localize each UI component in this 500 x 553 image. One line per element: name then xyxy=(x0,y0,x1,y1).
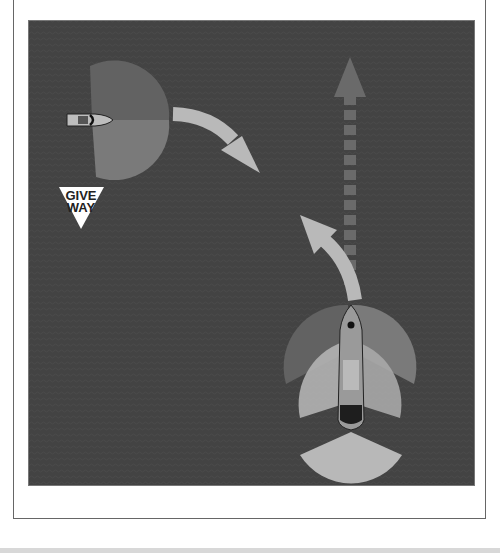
give-way-vessel xyxy=(67,114,113,126)
give-way-sign-line2: WAY xyxy=(67,200,96,215)
diagram-canvas: GIVE WAY xyxy=(0,0,500,553)
stand-on-vessel xyxy=(338,305,364,430)
